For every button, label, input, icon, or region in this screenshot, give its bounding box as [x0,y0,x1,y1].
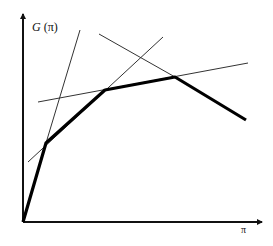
y-axis-label: G (π) [32,20,58,35]
tangent-lines [28,30,248,162]
diagram-canvas [0,0,273,246]
y-axis-label-argument: (π) [41,20,58,34]
y-axis-label-symbol: G [32,20,41,34]
x-axis-label: π [241,224,246,235]
decreasing-line [99,34,175,77]
